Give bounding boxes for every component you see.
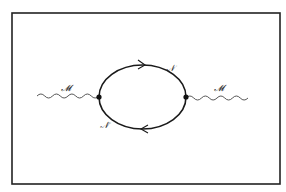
diagram-frame — [12, 13, 280, 184]
feynman-diagram: 𝓜 𝓜 𝒩 𝒩̄ — [0, 0, 286, 192]
right-vertex — [183, 94, 188, 99]
left-vertex — [96, 94, 101, 99]
